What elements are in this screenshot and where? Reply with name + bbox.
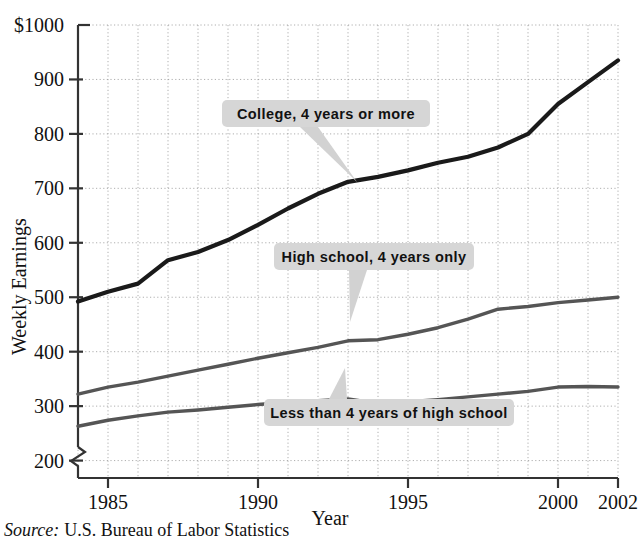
y-axis-break-symbol	[71, 447, 85, 478]
y-tick-label: 400	[34, 341, 64, 363]
callout-pointer	[300, 127, 357, 182]
x-tick-label: 1985	[88, 491, 128, 513]
source-note: Source:U.S. Bureau of Labor Statistics	[4, 520, 289, 540]
y-axis-title: Weekly Earnings	[8, 218, 31, 355]
callout-pointer	[349, 270, 367, 322]
y-tick-label: 900	[34, 68, 64, 90]
x-tick-label: 2000	[538, 491, 578, 513]
chart-canvas: $100090080070060050040030020019851990199…	[0, 0, 639, 546]
callout-pointer	[329, 368, 347, 399]
series-callout-label: Less than 4 years of high school	[270, 405, 508, 421]
x-tick-label: 2002	[598, 491, 638, 513]
y-tick-label: 200	[34, 450, 64, 472]
annotation-layer: College, 4 years or moreHigh school, 4 y…	[222, 100, 514, 426]
y-tick-label: 600	[34, 232, 64, 254]
x-tick-label: 1990	[238, 491, 278, 513]
y-tick-label: $1000	[14, 14, 64, 36]
y-tick-label: 300	[34, 395, 64, 417]
x-tick-label: 1995	[388, 491, 428, 513]
series-callout-label: College, 4 years or more	[237, 106, 415, 122]
y-tick-label: 500	[34, 286, 64, 308]
source-prefix-label: Source:	[4, 520, 59, 540]
x-axis-title: Year	[312, 507, 349, 529]
series-callout-label: High school, 4 years only	[282, 249, 467, 265]
y-tick-label: 700	[34, 177, 64, 199]
source-body-label: U.S. Bureau of Labor Statistics	[64, 520, 289, 540]
earnings-by-education-chart: $100090080070060050040030020019851990199…	[0, 0, 639, 546]
y-tick-label: 800	[34, 123, 64, 145]
